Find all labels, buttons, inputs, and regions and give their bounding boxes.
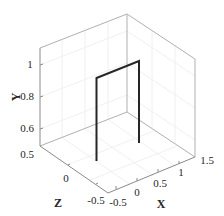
z-tick-0.5: 0.5 [20,148,34,160]
y-tick-0.6: 0.6 [20,122,34,134]
3d-line-plot: 1 0.8 0.6 0.5 0 -0.5 -0.5 0 0.5 1 1.5 Y … [0,0,224,216]
x-axis-label: X [157,197,166,211]
y-axis-label: Y [9,92,23,101]
y-tick-1: 1 [27,58,33,70]
x-tick-0.5: 0.5 [153,177,167,189]
z-tick-labels: 0.5 0 -0.5 [20,148,105,206]
data-line [97,61,140,161]
axes-box [40,14,195,193]
z-tick-0: 0 [63,172,69,184]
z-tick-neg0.5: -0.5 [87,194,105,206]
x-tick-1.5: 1.5 [200,154,214,166]
x-tick-1: 1 [178,166,184,178]
z-axis-label: Z [54,196,62,210]
x-tick-neg0.5: -0.5 [109,196,127,208]
x-tick-0: 0 [134,186,140,198]
grid-lines [40,22,195,185]
